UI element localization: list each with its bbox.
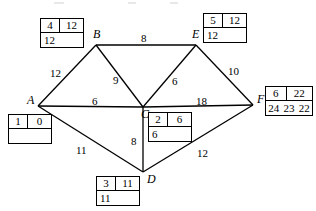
label-box-c-header-row: 26 bbox=[149, 113, 191, 127]
label-box-b-header-row: 412 bbox=[41, 19, 83, 33]
edge-weight-d-f: 12 bbox=[197, 148, 208, 159]
graph-node-a: A bbox=[27, 94, 34, 106]
label-box-f: 622242322 bbox=[265, 86, 313, 116]
label-box-c-working-row: 6 bbox=[149, 127, 191, 141]
graph-edge-a-c bbox=[38, 106, 143, 107]
label-box-f-working-value-3: 22 bbox=[297, 101, 312, 115]
edge-weight-c-f: 18 bbox=[196, 96, 207, 107]
graph-edge-b-c bbox=[96, 45, 143, 107]
label-box-e: 51212 bbox=[203, 13, 247, 43]
graph-node-d: D bbox=[147, 173, 156, 185]
label-box-d-header-row: 311 bbox=[97, 177, 139, 191]
label-box-b-working-value-1: 12 bbox=[41, 33, 83, 47]
label-box-b-final-label: 12 bbox=[60, 19, 83, 32]
label-box-a-working-row bbox=[9, 129, 51, 143]
edge-weight-b-e: 8 bbox=[141, 33, 147, 44]
graph-edge-a-d bbox=[38, 106, 143, 172]
label-box-a-working-value-1 bbox=[9, 129, 51, 143]
label-box-a-order: 1 bbox=[9, 115, 28, 128]
label-box-c: 266 bbox=[148, 112, 192, 142]
graph-edge-c-e bbox=[143, 45, 196, 107]
edge-weight-a-d: 11 bbox=[76, 145, 87, 156]
label-box-b-working-row: 12 bbox=[41, 33, 83, 47]
label-box-e-working-row: 12 bbox=[204, 28, 246, 42]
diagram-canvas: ABCDEF 126119868181012 10412122663111151… bbox=[0, 0, 316, 211]
label-box-c-order: 2 bbox=[149, 113, 168, 126]
label-box-d: 31111 bbox=[96, 176, 140, 206]
label-box-d-working-value-1: 11 bbox=[97, 191, 139, 205]
label-box-f-working-value-1: 24 bbox=[266, 101, 281, 115]
label-box-f-working-value-2: 23 bbox=[281, 101, 296, 115]
label-box-e-header-row: 512 bbox=[204, 14, 246, 28]
label-box-d-order: 3 bbox=[97, 177, 116, 190]
graph-edge-a-b bbox=[38, 45, 96, 106]
label-box-f-final-label: 22 bbox=[287, 87, 312, 100]
edge-weight-c-e: 6 bbox=[172, 76, 178, 87]
label-box-f-order: 6 bbox=[266, 87, 287, 100]
label-box-e-working-value-1: 12 bbox=[204, 28, 246, 42]
edge-weight-e-f: 10 bbox=[228, 66, 239, 77]
label-box-a: 10 bbox=[8, 114, 52, 144]
label-box-d-final-label: 11 bbox=[116, 177, 139, 190]
label-box-f-header-row: 622 bbox=[266, 87, 312, 101]
label-box-a-header-row: 10 bbox=[9, 115, 51, 129]
edge-weight-a-c: 6 bbox=[92, 96, 98, 107]
graph-node-f: F bbox=[257, 93, 264, 105]
graph-node-b: B bbox=[93, 28, 100, 40]
label-box-f-working-row: 242322 bbox=[266, 101, 312, 115]
label-box-c-final-label: 6 bbox=[168, 113, 191, 126]
label-box-b: 41212 bbox=[40, 18, 84, 48]
edge-weight-a-b: 12 bbox=[50, 68, 61, 79]
label-box-c-working-value-1: 6 bbox=[149, 127, 191, 141]
graph-node-e: E bbox=[192, 28, 199, 40]
label-box-b-order: 4 bbox=[41, 19, 60, 32]
label-box-a-final-label: 0 bbox=[28, 115, 51, 128]
edge-weight-c-d: 8 bbox=[131, 136, 137, 147]
label-box-e-final-label: 12 bbox=[223, 14, 246, 27]
label-box-d-working-row: 11 bbox=[97, 191, 139, 205]
edge-weight-b-c: 9 bbox=[113, 75, 119, 86]
label-box-e-order: 5 bbox=[204, 14, 223, 27]
